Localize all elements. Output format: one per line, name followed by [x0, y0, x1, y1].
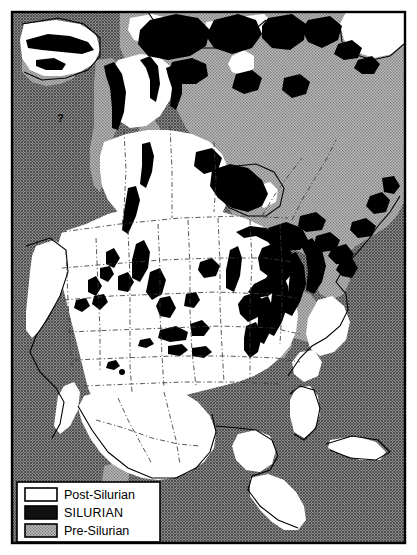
- legend-item-pre-silurian: Pre-Silurian: [25, 524, 129, 538]
- legend: Post-Silurian SILURIAN Pre-Silurian: [17, 482, 160, 542]
- legend-item-silurian: SILURIAN: [25, 506, 123, 520]
- legend-label-pre-silurian: Pre-Silurian: [64, 524, 129, 538]
- legend-label-post-silurian: Post-Silurian: [64, 488, 135, 502]
- legend-swatch-pre-silurian: [25, 524, 57, 537]
- map-figure: ? ? Post-Silurian SILURIAN Pre-Silurian: [0, 0, 417, 555]
- query-mark-south: ?: [57, 112, 64, 124]
- legend-item-post-silurian: Post-Silurian: [25, 488, 135, 502]
- legend-label-silurian: SILURIAN: [64, 506, 123, 520]
- map-body: ? ? Post-Silurian SILURIAN Pre-Silurian: [12, 12, 405, 543]
- legend-swatch-silurian: [25, 506, 57, 519]
- query-mark-north: ?: [45, 58, 52, 70]
- north-america-geologic-map: ? ? Post-Silurian SILURIAN Pre-Silurian: [0, 0, 417, 555]
- legend-swatch-post-silurian: [25, 488, 57, 501]
